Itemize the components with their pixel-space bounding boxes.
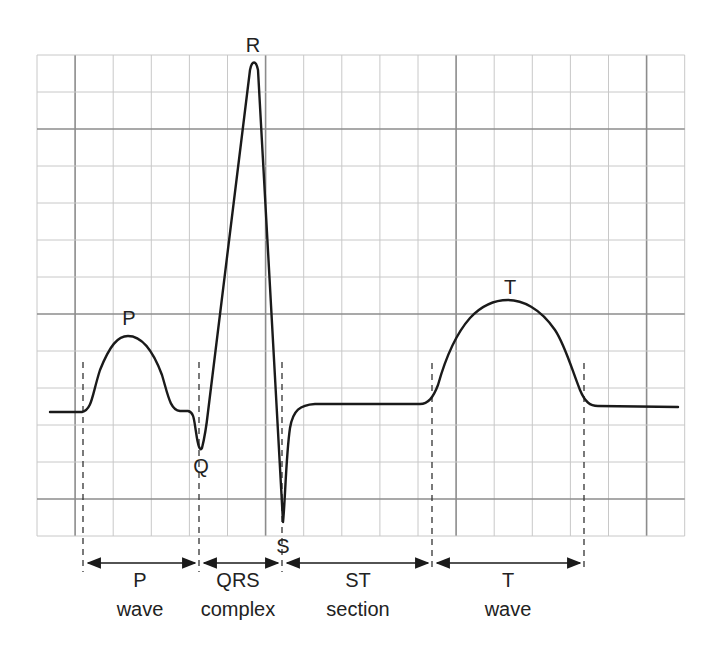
ecg-grid bbox=[37, 55, 685, 536]
segment-st-line2: section bbox=[326, 598, 389, 620]
segment-t-wave-line1: T bbox=[502, 569, 514, 591]
label-q: Q bbox=[193, 455, 209, 477]
wave-point-labels: P Q R S T bbox=[122, 34, 516, 557]
segment-p-wave-line2: wave bbox=[116, 598, 164, 620]
segment-st-line1: ST bbox=[345, 569, 371, 591]
segment-qrs-line2: complex bbox=[201, 598, 275, 620]
interval-dashed-lines bbox=[83, 362, 584, 572]
segment-qrs-line1: QRS bbox=[216, 569, 259, 591]
segment-st-section: ST section bbox=[326, 569, 389, 620]
ecg-diagram: P Q R S T P wave QRS complex ST section … bbox=[0, 0, 721, 653]
segment-p-wave-line1: P bbox=[133, 569, 146, 591]
label-p: P bbox=[122, 307, 135, 329]
segment-t-wave-line2: wave bbox=[484, 598, 532, 620]
label-s: S bbox=[276, 535, 289, 557]
label-t: T bbox=[504, 276, 516, 298]
segment-t-wave: T wave bbox=[484, 569, 532, 620]
segment-p-wave: P wave bbox=[116, 569, 164, 620]
segment-qrs-complex: QRS complex bbox=[201, 569, 275, 620]
label-r: R bbox=[246, 34, 260, 56]
interval-labels: P wave QRS complex ST section T wave bbox=[116, 569, 532, 620]
